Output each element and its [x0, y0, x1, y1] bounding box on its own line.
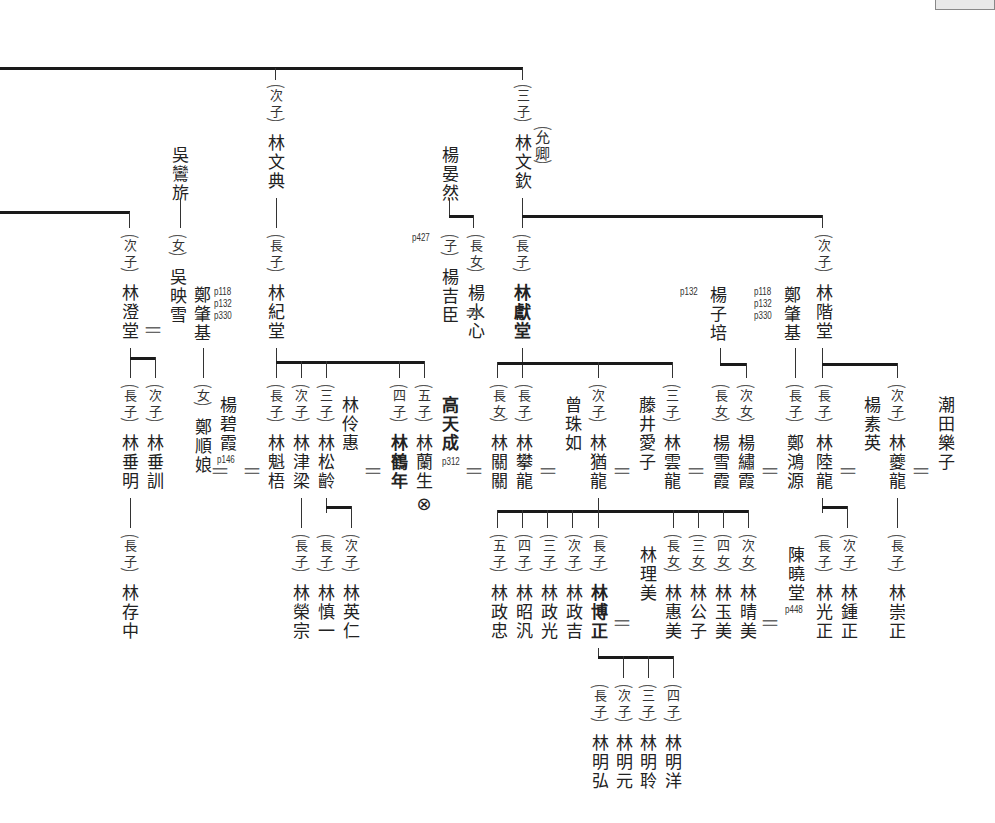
connector — [648, 656, 649, 678]
person-yang_bixia[interactable]: 楊碧霞 — [218, 392, 238, 453]
person-yang_zipei[interactable]: 楊子培 — [708, 282, 728, 343]
person-zhaofan[interactable]: ︵四子︶林昭汎 — [514, 528, 534, 641]
branch-line — [822, 506, 847, 509]
person-gongzi[interactable]: ︵三女︶林公子 — [688, 528, 708, 641]
person-cunzhong[interactable]: ︵長子︶林存中 — [120, 528, 140, 641]
person-bozheng[interactable]: ︵長子︶林博正 — [589, 528, 609, 641]
connector — [301, 361, 302, 378]
person-limei[interactable]: 林理美 — [638, 542, 658, 603]
person-yang_yanran[interactable]: 楊晏然 — [440, 142, 460, 203]
page-reference: p132 — [680, 286, 698, 298]
person-name: 林政忠 — [491, 584, 508, 641]
person-guangzheng[interactable]: ︵長子︶林光正 — [814, 528, 834, 641]
person-henian[interactable]: ︵四子︶林鶴年 — [389, 378, 409, 491]
person-chen_xiaotang[interactable]: 陳曉堂 — [786, 542, 806, 603]
person-mingling[interactable]: ︵三子︶林明聆 — [638, 678, 658, 791]
name-char: 樂 — [938, 434, 955, 453]
name-char: 曾 — [565, 396, 582, 415]
marriage-symbol: ＝ — [686, 456, 706, 485]
name-char: 林 — [541, 584, 558, 603]
paren-open: ︵ — [512, 228, 531, 238]
paren-open: ︵ — [440, 228, 459, 238]
person-yunlong[interactable]: ︵三子︶林雲龍 — [662, 378, 682, 491]
name-char: 林 — [122, 584, 139, 603]
person-gao_tiancheng[interactable]: 高天成 — [440, 392, 460, 453]
name-char: 林 — [416, 434, 433, 453]
person-youlong[interactable]: ︵次子︶林猶龍 — [588, 378, 608, 491]
person-zheng_zhaoji[interactable]: 鄭肇基 — [192, 282, 212, 343]
paren-open: ︵ — [614, 678, 633, 688]
person-zhengzhong[interactable]: ︵五子︶林政忠 — [489, 528, 509, 641]
person-name: 林慎一 — [318, 584, 335, 641]
person-shiota_rakuko[interactable]: 潮田樂子 — [936, 392, 956, 472]
person-lulong[interactable]: ︵長子︶林陸龍 — [814, 378, 834, 491]
person-kuiwu[interactable]: ︵長子︶林魁梧 — [266, 378, 286, 491]
marriage-symbol: ＝ — [242, 456, 262, 485]
person-chuiming[interactable]: ︵長子︶林垂明 — [120, 378, 140, 491]
person-name: 林存中 — [122, 584, 139, 641]
name-char: 美 — [665, 622, 682, 641]
person-wenqin[interactable]: ︵三子︶林文欽︵允卿︶ — [513, 78, 533, 191]
person-zhongzheng[interactable]: ︵次子︶林鍾正 — [839, 528, 859, 641]
name-char: 天 — [442, 415, 459, 434]
person-huimei[interactable]: ︵長女︶林惠美 — [663, 528, 683, 641]
person-jinliang[interactable]: ︵次子︶林津梁 — [291, 378, 311, 491]
connector — [497, 510, 498, 528]
person-wu_luanqi[interactable]: 吳鸞旂 — [170, 142, 190, 203]
person-linghui[interactable]: 林伶惠 — [340, 392, 360, 453]
person-panlong[interactable]: ︵長子︶林攀龍 — [514, 378, 534, 491]
person-kuilong[interactable]: ︵次子︶林夔龍 — [887, 378, 907, 491]
name-char: 雪 — [713, 453, 730, 472]
connector — [326, 361, 327, 378]
person-yang_jichen[interactable]: ︵子︶楊吉臣 — [440, 228, 460, 325]
person-mingyang[interactable]: ︵四子︶林明洋 — [663, 678, 683, 791]
person-guanguan[interactable]: ︵長女︶林關關 — [489, 378, 509, 491]
person-yumei[interactable]: ︵四女︶林玉美 — [713, 528, 733, 641]
person-zeng_zhuru[interactable]: 曾珠如 — [563, 392, 583, 453]
relation-char: 長 — [594, 688, 607, 704]
person-songling[interactable]: ︵三子︶林松齡 — [316, 378, 336, 491]
person-name: 林鍾正 — [841, 584, 858, 641]
person-name: 楊吉臣 — [442, 268, 459, 325]
person-shenyi[interactable]: ︵長子︶林慎一 — [316, 528, 336, 641]
name-char: 子 — [690, 622, 707, 641]
person-yang_suying[interactable]: 楊素英 — [862, 392, 882, 453]
person-zheng_hongyuan[interactable]: ︵長子︶鄭鴻源 — [785, 378, 805, 491]
paren-open: ︵ — [839, 528, 858, 538]
name-char: 文 — [515, 153, 532, 172]
paren-close: ︶ — [266, 270, 285, 280]
person-jietang[interactable]: ︵次子︶林階堂 — [814, 228, 834, 341]
person-wu_yingxue[interactable]: ︵女︶吳映雪 — [168, 228, 188, 325]
person-qingmei[interactable]: ︵次女︶林晴美 — [738, 528, 758, 641]
person-zheng_zhaoji2[interactable]: 鄭肇基 — [782, 282, 802, 343]
person-yingren[interactable]: ︵次子︶林英仁 — [341, 528, 361, 641]
relation-char: 三 — [666, 388, 679, 404]
person-fujii_aiko[interactable]: 藤井愛子 — [637, 392, 657, 472]
marriage-symbol: ＝ — [363, 456, 383, 485]
person-lansheng[interactable]: ︵五子︶林蘭生⊗ — [414, 378, 434, 514]
paren-close: ︶ — [588, 420, 607, 430]
person-yang_xiuxia[interactable]: ︵次女︶楊繡霞 — [736, 378, 756, 491]
name-char: 林 — [816, 434, 833, 453]
relation-char: 四 — [518, 538, 531, 554]
name-char: 林 — [268, 284, 285, 303]
connector — [795, 348, 796, 378]
marriage-symbol: ＝ — [911, 456, 931, 485]
name-char: 垂 — [122, 453, 139, 472]
person-chuixun[interactable]: ︵次子︶林垂訓 — [145, 378, 165, 491]
person-chengtang[interactable]: ︵次子︶林澄堂 — [120, 228, 140, 341]
person-rongzong[interactable]: ︵長子︶林榮宗 — [291, 528, 311, 641]
person-zhengguang[interactable]: ︵三子︶林政光 — [539, 528, 559, 641]
person-xiantang[interactable]: ︵長子︶林獻堂 — [512, 228, 532, 341]
person-minghong[interactable]: ︵長子︶林明弘 — [590, 678, 610, 791]
person-zhengji[interactable]: ︵次子︶林政吉 — [564, 528, 584, 641]
name-char: 澄 — [122, 303, 139, 322]
relation-char: 長 — [124, 538, 137, 554]
person-wenjian[interactable]: ︵次子︶林文典 — [266, 78, 286, 191]
paren-close: ︶ — [145, 420, 164, 430]
person-name: 林玉美 — [715, 584, 732, 641]
person-yang_xuexia[interactable]: ︵長女︶楊雪霞 — [711, 378, 731, 491]
person-chongzheng[interactable]: ︵長子︶林崇正 — [887, 528, 907, 641]
person-jitang[interactable]: ︵長子︶林紀堂 — [266, 228, 286, 341]
person-mingyuan[interactable]: ︵次子︶林明元 — [614, 678, 634, 791]
